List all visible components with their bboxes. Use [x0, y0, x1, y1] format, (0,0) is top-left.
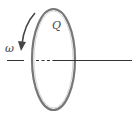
rotation-arrowhead-icon	[18, 41, 26, 51]
rotating-ring-diagram: Q ω	[0, 0, 138, 123]
angular-velocity-label: ω	[5, 42, 14, 55]
charge-label: Q	[52, 19, 61, 32]
